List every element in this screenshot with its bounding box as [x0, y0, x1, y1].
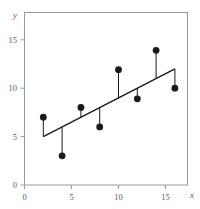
data-point — [96, 124, 103, 131]
plot-frame — [25, 13, 188, 186]
data-point — [172, 85, 179, 92]
data-point — [78, 104, 85, 111]
y-axis-ticks — [21, 40, 25, 185]
y-tick-label-0: 0 — [13, 180, 17, 190]
y-tick-label-15: 15 — [9, 35, 18, 45]
x-axis-label: x — [189, 190, 194, 200]
data-point — [153, 47, 160, 54]
data-point — [59, 152, 66, 159]
y-axis-label: y — [12, 10, 17, 20]
x-tick-label-10: 10 — [114, 192, 123, 202]
x-tick-label-5: 5 — [69, 192, 73, 202]
x-tick-label-15: 15 — [161, 192, 170, 202]
x-axis-tick-labels: 0 5 10 15 — [22, 192, 169, 202]
plot-canvas: 0 5 10 15 0 5 10 15 y x — [0, 0, 200, 209]
scatter-plot-figure: 0 5 10 15 0 5 10 15 y x — [0, 0, 200, 209]
y-axis-tick-labels: 0 5 10 15 — [9, 35, 18, 190]
x-tick-label-0: 0 — [22, 192, 26, 202]
data-point — [134, 95, 141, 102]
x-axis-ticks — [25, 185, 166, 189]
data-point — [115, 66, 122, 73]
data-point — [40, 114, 47, 121]
y-tick-label-10: 10 — [9, 83, 18, 93]
y-tick-label-5: 5 — [13, 132, 17, 142]
